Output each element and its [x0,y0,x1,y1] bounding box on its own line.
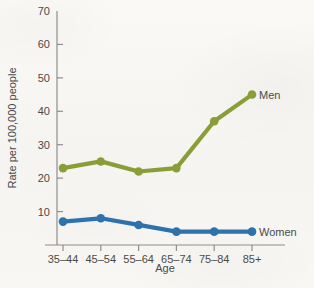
data-point-men-3 [172,164,181,173]
data-point-women-3 [172,227,181,236]
y-tick-label: 10 [38,206,50,218]
series-inline-labels: MenWomen [259,89,297,238]
data-point-men-1 [97,157,106,166]
x-axis-title: Age [155,262,175,274]
x-tick-label: 45–54 [86,253,117,265]
series-line-women [63,218,252,231]
line-chart: 10203040506070 35–4445–5455–6465–7475–84… [0,0,314,288]
data-point-women-2 [134,221,143,230]
x-tick-label: 35–44 [48,253,79,265]
data-point-men-0 [59,164,68,173]
data-point-men-5 [248,90,257,99]
data-point-women-1 [97,214,106,223]
series-label-men: Men [259,89,280,101]
data-point-men-2 [134,167,143,176]
x-tick-label: 55–64 [123,253,154,265]
data-point-women-0 [59,217,68,226]
y-tick-label: 20 [38,172,50,184]
x-tick-label: 85+ [243,253,262,265]
y-axis-title: Rate per 100,000 people [6,67,18,188]
data-point-women-5 [248,227,257,236]
data-point-women-4 [210,227,219,236]
y-tick-label: 70 [38,5,50,17]
y-tick-label: 40 [38,105,50,117]
y-axis-tick-labels: 10203040506070 [38,5,50,218]
data-series-group [59,90,257,236]
data-point-men-4 [210,117,219,126]
y-tick-label: 50 [38,72,50,84]
x-tick-label: 75–84 [199,253,230,265]
y-tick-label: 30 [38,139,50,151]
y-tick-label: 60 [38,38,50,50]
x-axis-tick-marks [63,245,252,251]
y-axis-tick-marks [57,44,63,211]
chart-screenshot: 10203040506070 35–4445–5455–6465–7475–84… [0,0,314,288]
series-label-women: Women [259,226,297,238]
series-line-men [63,95,252,172]
